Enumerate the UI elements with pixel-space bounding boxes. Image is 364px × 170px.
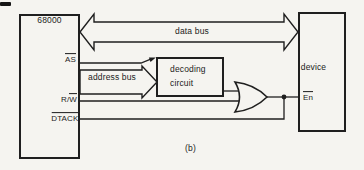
as-signal-wire <box>80 59 152 63</box>
dtack-pin-label: DTACK <box>51 112 78 124</box>
address-bus-label: address bus <box>88 73 136 82</box>
rw-pin-prefix: R/ <box>61 95 69 104</box>
rw-pin-overlined: W <box>69 93 77 104</box>
circuit-diagram: 68000 AS R/W DTACK data bus address bus … <box>0 0 364 170</box>
decoder-label-line1: decoding <box>170 62 206 76</box>
decoder-label-line2: circuit <box>170 76 206 90</box>
decoder-label: decoding circuit <box>170 62 206 90</box>
as-arrowhead-icon <box>149 57 156 62</box>
figure-caption: (b) <box>185 144 196 153</box>
junction-dot <box>282 95 287 100</box>
en-pin-text: En <box>303 91 313 102</box>
data-bus-label: data bus <box>175 27 209 36</box>
as-pin-label: AS <box>65 53 76 65</box>
device-title: device <box>301 63 326 72</box>
en-pin-label: En <box>303 91 313 103</box>
as-pin-text: AS <box>65 53 76 64</box>
dtack-pin-text: DTACK <box>51 112 78 123</box>
rw-pin-label: R/W <box>61 93 77 105</box>
cpu-title: 68000 <box>37 16 61 25</box>
or-gate <box>235 82 267 112</box>
